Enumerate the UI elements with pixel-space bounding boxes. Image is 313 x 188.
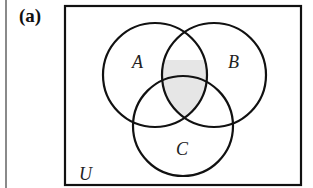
- label-universe: U: [79, 164, 93, 184]
- label-a: A: [131, 52, 144, 72]
- label-c: C: [176, 139, 189, 159]
- label-b: B: [228, 52, 239, 72]
- venn-diagram: A B C U: [0, 0, 313, 188]
